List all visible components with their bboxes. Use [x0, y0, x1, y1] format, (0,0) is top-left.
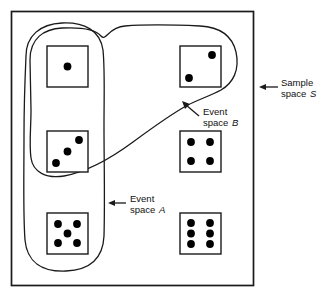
die-5-pip [54, 239, 62, 247]
die-1-pip [64, 63, 72, 71]
die-2-pip [208, 51, 216, 59]
die-6-pip [187, 230, 195, 238]
die-4-pip [187, 138, 195, 146]
die-6-pip [206, 219, 214, 227]
sample-space-label-line1: Sample [281, 77, 313, 88]
sample-space-symbol: S [310, 88, 317, 99]
die-3-pip [52, 159, 60, 167]
die-4-pip [206, 138, 214, 146]
event-space-a-symbol: A [158, 204, 165, 215]
die-2-pip [185, 74, 193, 82]
event-space-a-label-line1: Event [130, 193, 155, 204]
die-5-pip [64, 230, 72, 238]
die-6-pip [187, 219, 195, 227]
die-face-1 [47, 46, 88, 87]
sample-space-callout: Sample space S [259, 77, 317, 99]
die-5-pip [54, 220, 62, 228]
sample-space-label-line2: space [281, 88, 306, 99]
venn-dice-diagram: Sample space S Event space B Event space… [0, 0, 321, 298]
die-face-6 [180, 213, 221, 254]
die-5-pip [73, 239, 81, 247]
die-6-pip [206, 230, 214, 238]
die-3-pip [64, 148, 72, 156]
die-6-pip [206, 240, 214, 248]
event-space-b-label-line1: Event [203, 106, 228, 117]
die-face-4 [180, 131, 221, 172]
event-space-b-symbol: B [232, 117, 239, 128]
sample-space-arrow-head [259, 84, 266, 90]
die-5-pip [73, 220, 81, 228]
event-space-a-label-line2: space [130, 204, 155, 215]
die-4-pip [187, 157, 195, 165]
figure-canvas: Sample space S Event space B Event space… [0, 0, 321, 298]
die-3-pip [75, 136, 83, 144]
die-face-3 [47, 131, 88, 172]
die-6-pip [187, 240, 195, 248]
event-space-b-label-line2: space [203, 117, 228, 128]
die-face-5 [47, 213, 88, 254]
die-face-2 [180, 46, 221, 87]
die-4-pip [206, 157, 214, 165]
